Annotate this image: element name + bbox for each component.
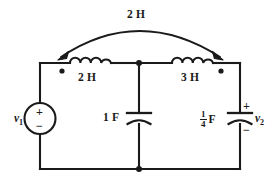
circuit-schematic-svg bbox=[0, 0, 275, 185]
dot-convention-marker-left bbox=[59, 68, 64, 73]
output-voltage-subscript: 2 bbox=[260, 118, 264, 127]
output-voltage-label: v2 bbox=[255, 113, 264, 127]
fraction-one-quarter: 1 4 bbox=[200, 110, 207, 130]
capacitor-right-label: 1 4 F bbox=[200, 110, 216, 130]
capacitor-right-unit: F bbox=[207, 114, 216, 126]
fraction-denominator: 4 bbox=[200, 119, 207, 129]
circuit-diagram: 2 H 2 H 3 H 1 F 1 4 F v1 + − + − v2 bbox=[0, 0, 275, 185]
junction-node-top bbox=[136, 60, 142, 66]
arrowhead-right bbox=[213, 52, 224, 61]
polarized-capacitor-icon-center bbox=[127, 113, 151, 124]
source-voltage-label: v1 bbox=[14, 113, 23, 127]
mutual-inductance-label: 2 H bbox=[127, 9, 145, 21]
source-minus-sign: − bbox=[36, 120, 43, 132]
inductor-coil-icon-left bbox=[70, 58, 111, 63]
inductor-coil-icon-right bbox=[172, 58, 213, 63]
inductor-left-label: 2 H bbox=[78, 72, 96, 84]
mutual-coupling-arc-icon bbox=[58, 31, 223, 60]
dot-convention-marker-right bbox=[218, 68, 223, 73]
output-plus-sign: + bbox=[243, 100, 250, 112]
output-minus-sign: − bbox=[243, 124, 250, 136]
arrowhead-left bbox=[58, 52, 69, 61]
source-plus-sign: + bbox=[36, 106, 43, 118]
junction-node-bottom bbox=[136, 166, 142, 172]
fraction-numerator: 1 bbox=[200, 110, 207, 119]
source-voltage-subscript: 1 bbox=[19, 118, 23, 127]
inductor-right-label: 3 H bbox=[181, 72, 199, 84]
capacitor-center-label: 1 F bbox=[103, 112, 119, 124]
